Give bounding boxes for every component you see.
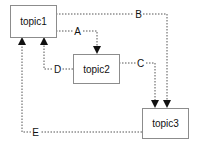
edge-e[interactable]: E [18, 37, 142, 138]
edge-d-label: D [54, 64, 61, 75]
node-topic3-label: topic3 [152, 118, 179, 129]
diagram-canvas: A B C D E topic1 topic2 topic3 [0, 0, 198, 146]
node-topic2[interactable]: topic2 [74, 55, 120, 84]
edge-b-label: B [135, 9, 142, 20]
edge-c[interactable]: C [119, 57, 159, 108]
arrowhead-down-icon [93, 46, 101, 54]
edge-d[interactable]: D [40, 37, 73, 75]
node-topic2-label: topic2 [83, 64, 110, 75]
node-topic3[interactable]: topic3 [143, 109, 189, 139]
edge-a-label: A [74, 26, 81, 37]
arrowhead-down-icon [151, 100, 159, 108]
edge-c-label: C [137, 58, 144, 69]
node-topic1[interactable]: topic1 [11, 6, 57, 38]
edge-e-label: E [32, 127, 39, 138]
arrowhead-up-icon [40, 37, 48, 45]
node-topic1-label: topic1 [20, 16, 47, 27]
arrowhead-down-icon [163, 100, 171, 108]
edge-a[interactable]: A [56, 25, 101, 54]
arrowhead-up-icon [18, 37, 26, 45]
